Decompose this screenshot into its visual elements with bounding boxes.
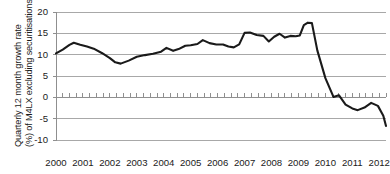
x-tick-label-2000: 2000 [45,158,66,168]
y-tick-label-5: 5 [18,71,48,81]
x-tick-label-2005: 2005 [180,158,201,168]
x-tick-label-2004: 2004 [153,158,174,168]
y-tick-label--10: -10 [18,135,48,145]
y-tick-label-10: 10 [18,50,48,60]
y-axis-title-line-1: Quarterly 12 month growth rate [13,24,25,147]
x-tick-label-2009: 2009 [288,158,309,168]
x-tick-label-2006: 2006 [207,158,228,168]
x-tick-label-2007: 2007 [234,158,255,168]
plot-area: 20151050-5-10 20002001200220032004200520… [56,12,386,140]
x-tick-label-2001: 2001 [72,158,93,168]
x-tick-label-2002: 2002 [99,158,120,168]
y-tick-label-0: 0 [18,92,48,102]
series-line-m4lx [56,23,386,126]
x-tick-label-2008: 2008 [261,158,282,168]
x-tick-label-2012: 2012 [369,158,390,168]
y-tick-label-20: 20 [18,7,48,17]
y-tick-label-15: 15 [18,28,48,38]
series-plot [56,12,386,140]
x-tick-label-2003: 2003 [126,158,147,168]
y-tick-label--5: -5 [18,114,48,124]
chart-container: Quarterly 12 month growth rate (%) of M4… [0,0,390,174]
x-tick-label-2010: 2010 [315,158,336,168]
x-tick-label-2011: 2011 [342,158,363,168]
